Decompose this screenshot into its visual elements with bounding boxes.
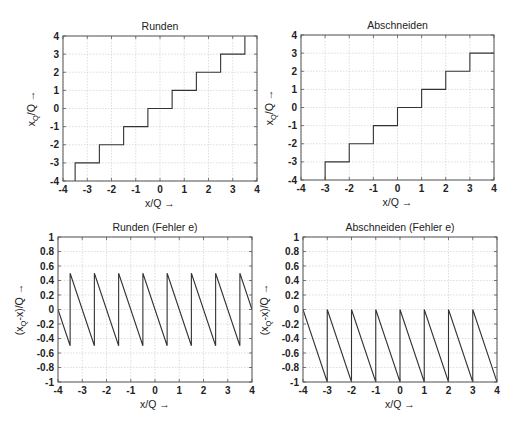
x-tick-label: -1	[369, 183, 378, 194]
x-tick-label: -2	[107, 184, 116, 195]
x-tick-label: 1	[181, 184, 187, 195]
y-tick-label: -0.4	[282, 333, 300, 344]
x-tick-label: 3	[470, 385, 476, 396]
x-tick-label: 2	[443, 183, 449, 194]
y-tick-label: 0.6	[40, 261, 54, 272]
y-tick-label: 0	[53, 103, 59, 114]
y-tick-label: -1	[50, 121, 59, 132]
chart-runden: -4-3-2-101234-4-3-2-101234Rundenx/Q →xQ/…	[25, 20, 260, 209]
y-tick-label: 0.6	[285, 261, 299, 272]
x-tick-label: -1	[371, 385, 380, 396]
y-tick-label: -1	[45, 377, 54, 388]
y-tick-label: -0.8	[37, 362, 55, 373]
x-tick-label: -4	[297, 183, 306, 194]
x-tick-label: 0	[395, 183, 401, 194]
y-tick-label: -0.6	[37, 348, 55, 359]
y-tick-label: -0.2	[37, 319, 55, 330]
data-line	[325, 53, 494, 180]
data-line	[58, 273, 252, 346]
y-tick-label: 1	[293, 232, 299, 243]
y-tick-label: 0.8	[285, 246, 299, 257]
x-tick-label: -1	[126, 385, 135, 396]
y-tick-label: 1	[48, 232, 54, 243]
y-tick-label: 0.2	[285, 290, 299, 301]
y-tick-label: 2	[291, 66, 297, 77]
y-tick-label: 0	[291, 102, 297, 113]
y-tick-label: -4	[50, 176, 59, 187]
x-axis-label: x/Q →	[383, 196, 413, 208]
chart-abschneiden-fehler: -4-3-2-101234-1-0.8-0.6-0.4-0.200.20.40.…	[258, 221, 500, 410]
y-tick-label: -0.8	[282, 362, 300, 373]
x-tick-label: -2	[347, 385, 356, 396]
y-tick-label: -1	[288, 120, 297, 131]
y-tick-label: 0.2	[40, 290, 54, 301]
x-tick-label: 0	[157, 184, 163, 195]
chart-title: Abschneiden	[367, 19, 428, 31]
chart-title: Abschneiden (Fehler e)	[345, 221, 454, 233]
x-tick-label: 1	[176, 385, 182, 396]
x-tick-label: 0	[152, 385, 158, 396]
y-tick-label: 4	[291, 30, 297, 41]
y-axis-label: xQ/Q →	[25, 91, 40, 127]
y-tick-label: 0.8	[40, 246, 54, 257]
y-tick-label: -0.6	[282, 348, 300, 359]
chart-runden-fehler: -4-3-2-101234-1-0.8-0.6-0.4-0.200.20.40.…	[13, 221, 255, 410]
y-tick-label: -0.4	[37, 333, 55, 344]
figure: -4-3-2-101234-4-3-2-101234Rundenx/Q →xQ/…	[0, 0, 528, 428]
x-tick-label: -3	[321, 183, 330, 194]
y-tick-label: 0	[48, 304, 54, 315]
x-tick-label: -3	[323, 385, 332, 396]
x-tick-label: 4	[249, 385, 255, 396]
y-tick-label: 1	[53, 85, 59, 96]
x-tick-label: -4	[59, 184, 68, 195]
x-tick-label: -1	[131, 184, 140, 195]
x-tick-label: 2	[201, 385, 207, 396]
y-tick-label: -1	[290, 377, 299, 388]
x-tick-label: 2	[446, 385, 452, 396]
x-axis-label: x/Q →	[385, 398, 415, 410]
y-tick-label: -3	[50, 157, 59, 168]
y-tick-label: -2	[50, 139, 59, 150]
x-tick-label: -2	[102, 385, 111, 396]
x-tick-label: 4	[494, 385, 500, 396]
chart-abschneiden: -4-3-2-101234-4-3-2-101234Abschneidenx/Q…	[263, 19, 497, 208]
x-axis-label: x/Q →	[145, 197, 175, 209]
y-tick-label: -0.2	[282, 319, 300, 330]
x-tick-label: 3	[467, 183, 473, 194]
data-line	[303, 310, 497, 383]
y-tick-label: 0.4	[40, 275, 54, 286]
x-tick-label: -3	[78, 385, 87, 396]
x-tick-label: 3	[230, 184, 236, 195]
x-axis-label: x/Q →	[140, 398, 170, 410]
y-tick-label: 3	[291, 48, 297, 59]
y-axis-label: (xQ-x)/Q →	[258, 284, 273, 335]
x-tick-label: -2	[345, 183, 354, 194]
x-tick-label: 1	[419, 183, 425, 194]
x-tick-label: 0	[397, 385, 403, 396]
x-tick-label: 4	[254, 184, 260, 195]
y-tick-label: -2	[288, 138, 297, 149]
chart-title: Runden	[142, 20, 179, 32]
y-tick-label: 4	[53, 31, 59, 42]
chart-title: Runden (Fehler e)	[112, 221, 197, 233]
y-tick-label: -4	[288, 175, 297, 186]
x-tick-label: -3	[83, 184, 92, 195]
y-axis-label: (xQ-x)/Q →	[13, 284, 28, 335]
y-tick-label: 0	[293, 304, 299, 315]
y-tick-label: 1	[291, 84, 297, 95]
x-tick-label: 3	[225, 385, 231, 396]
x-tick-label: -4	[299, 385, 308, 396]
y-tick-label: 2	[53, 67, 59, 78]
x-tick-label: 2	[206, 184, 212, 195]
y-tick-label: -3	[288, 156, 297, 167]
y-axis-label: xQ/Q →	[263, 90, 278, 126]
x-tick-label: 4	[491, 183, 497, 194]
x-tick-label: 1	[421, 385, 427, 396]
y-tick-label: 3	[53, 49, 59, 60]
y-tick-label: 0.4	[285, 275, 299, 286]
x-tick-label: -4	[54, 385, 63, 396]
